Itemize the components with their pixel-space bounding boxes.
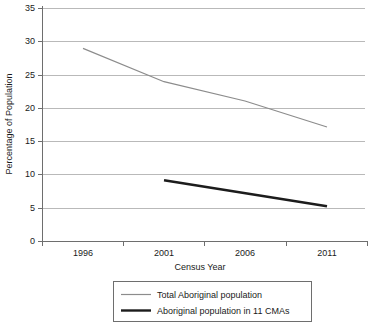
line-chart: 35 30 25 20 15 10 5 0 Percentage of Popu… — [0, 0, 373, 329]
x-tick-label-2001: 2001 — [154, 248, 174, 258]
legend-label-total-aboriginal-population: Total Aboriginal population — [157, 290, 262, 300]
y-tick-label-5: 5 — [30, 203, 35, 213]
y-axis-title: Percentage of Population — [4, 73, 14, 174]
y-tick-label-25: 25 — [25, 70, 35, 80]
y-tick-label-30: 30 — [25, 36, 35, 46]
y-tick-label-35: 35 — [25, 3, 35, 13]
y-tick-label-0: 0 — [30, 236, 35, 246]
legend: Total Aboriginal population Aboriginal p… — [114, 282, 312, 322]
y-tick-label-15: 15 — [25, 136, 35, 146]
x-tick-label-1996: 1996 — [73, 248, 93, 258]
series-line-total-aboriginal-population — [83, 48, 327, 127]
legend-label-aboriginal-population-11-cmas: Aboriginal population in 11 CMAs — [157, 306, 290, 316]
y-axis: 35 30 25 20 15 10 5 0 — [25, 3, 43, 246]
x-tick-label-2006: 2006 — [235, 248, 255, 258]
x-tick-label-2011: 2011 — [317, 248, 336, 258]
x-axis: 1996 2001 2006 2011 — [43, 242, 369, 259]
x-axis-title: Census Year — [174, 262, 225, 272]
chart-canvas: 35 30 25 20 15 10 5 0 Percentage of Popu… — [0, 0, 373, 329]
y-tick-label-10: 10 — [25, 169, 35, 179]
gridlines — [43, 9, 366, 209]
series-line-aboriginal-population-11-cmas — [164, 180, 327, 206]
y-tick-label-20: 20 — [25, 103, 35, 113]
